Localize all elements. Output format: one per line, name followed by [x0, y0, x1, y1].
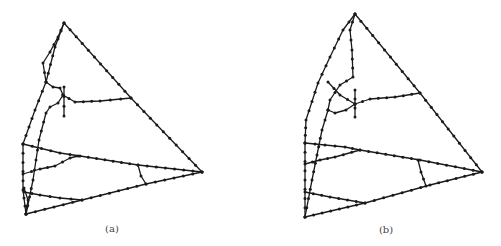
graph-node — [325, 64, 328, 67]
graph-node — [389, 56, 392, 59]
graph-node — [364, 202, 367, 205]
graph-node — [49, 106, 52, 109]
graph-node — [70, 198, 73, 201]
graph-node — [455, 177, 458, 180]
graph-node — [311, 161, 314, 164]
graph-node — [321, 212, 324, 215]
graph-node — [377, 97, 380, 100]
graph-node — [40, 130, 43, 133]
graph-node — [93, 56, 96, 59]
graph-node — [123, 90, 126, 93]
graph-node — [111, 76, 114, 79]
graph-node — [312, 192, 315, 195]
graph-node — [305, 119, 308, 122]
graph-node — [472, 173, 475, 176]
graph-node — [23, 197, 26, 200]
graph-node — [383, 48, 386, 51]
graph-node — [22, 152, 25, 155]
graph-node — [49, 195, 52, 198]
graph-node — [145, 183, 148, 186]
graph-node — [63, 115, 66, 118]
graph-node — [334, 112, 337, 115]
graph-node — [54, 46, 57, 49]
graph-node — [314, 91, 317, 94]
graph-node — [401, 156, 404, 159]
graph-node — [105, 69, 108, 72]
graph-node — [355, 200, 358, 203]
graph-node — [339, 84, 342, 87]
graph-node — [417, 159, 420, 162]
graph-node — [351, 21, 354, 24]
graph-node — [30, 170, 33, 173]
graph-node — [26, 206, 29, 209]
graph-node — [45, 81, 48, 84]
graph-node — [393, 154, 396, 157]
graph-node — [410, 157, 413, 160]
graph-node — [437, 181, 440, 184]
graph-node — [329, 210, 332, 213]
graph-node — [316, 154, 319, 157]
graph-node — [321, 73, 324, 76]
graph-node — [191, 173, 194, 176]
graph-node — [136, 103, 139, 106]
graph-node — [371, 34, 374, 37]
graph-node — [410, 189, 413, 192]
graph-node — [146, 165, 149, 168]
graph-edge — [138, 165, 146, 184]
graph-node — [22, 143, 25, 146]
graph-node — [117, 189, 120, 192]
graph-node — [304, 142, 307, 145]
graph-node — [430, 106, 433, 109]
graph-node — [99, 100, 102, 103]
graph-node — [304, 191, 307, 194]
graph-node — [339, 94, 342, 97]
graph-node — [446, 179, 449, 182]
graph-node — [31, 192, 34, 195]
graph-node — [445, 164, 448, 167]
graph-node — [68, 97, 71, 100]
graph-node — [481, 171, 484, 174]
graph-node — [69, 28, 72, 31]
graph-node — [22, 179, 25, 182]
graph-node — [103, 158, 106, 161]
graph-node — [304, 179, 307, 182]
graph-node — [87, 156, 90, 159]
graph-node — [52, 86, 55, 89]
graph-node — [304, 126, 307, 129]
graph-node — [22, 170, 25, 173]
graph-node — [304, 197, 307, 200]
graph-node — [168, 137, 171, 140]
graph-node — [435, 113, 438, 116]
graph-node — [108, 192, 111, 195]
graph-node — [307, 197, 310, 200]
graph-node — [74, 101, 77, 104]
graph-node — [63, 22, 66, 25]
graph-node — [346, 199, 349, 202]
graph-node — [182, 169, 185, 172]
graph-node — [77, 155, 80, 158]
graph-node — [62, 203, 65, 206]
graph-node — [351, 49, 354, 52]
graph-node — [128, 162, 131, 165]
graph-node — [384, 153, 387, 156]
graph-node — [354, 89, 357, 92]
graph-node — [90, 100, 93, 103]
graph-node — [314, 162, 317, 165]
graph-node — [452, 135, 455, 138]
graph-node — [377, 41, 380, 44]
graph-node — [28, 126, 31, 129]
graph-node — [342, 153, 345, 156]
graph-node — [188, 157, 191, 160]
graph-node — [59, 197, 62, 200]
graph-node — [304, 206, 307, 209]
graph-node — [319, 137, 322, 140]
graph-node — [191, 170, 194, 173]
graph-node — [63, 86, 66, 89]
graph-edge — [305, 14, 355, 143]
graph-node — [304, 216, 307, 219]
graph-node — [62, 94, 65, 97]
graph-node — [95, 157, 98, 160]
graph-edge — [64, 23, 202, 172]
graph-node — [47, 72, 50, 75]
graph-node — [71, 201, 74, 204]
